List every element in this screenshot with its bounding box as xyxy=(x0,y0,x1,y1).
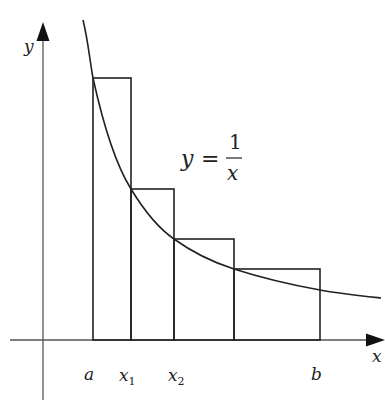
tick-label-x2: x2 xyxy=(168,365,185,388)
equation-label: y = 1 x xyxy=(180,130,242,185)
curve-one-over-x xyxy=(83,20,381,298)
equation-numerator: 1 xyxy=(229,130,242,154)
riemann-sum-diagram: y x y = 1 x a x1 x2 b xyxy=(0,0,385,404)
y-axis xyxy=(37,22,50,400)
x-axis-arrow-icon xyxy=(366,334,385,347)
tick-label-x1: x1 xyxy=(119,365,136,388)
x-axis-label: x xyxy=(372,346,382,366)
rectangle-3 xyxy=(174,239,234,340)
y-axis-label: y xyxy=(23,36,34,56)
rectangle-2 xyxy=(131,189,174,340)
y-axis-arrow-icon xyxy=(37,22,50,41)
equation-lhs: y xyxy=(180,146,194,171)
tick-label-b: b xyxy=(311,364,322,384)
equation-equals: = xyxy=(201,146,219,171)
rectangle-4 xyxy=(234,269,320,340)
tick-label-a: a xyxy=(84,364,94,384)
equation-denominator: x xyxy=(227,161,238,185)
rectangle-1 xyxy=(93,78,131,340)
rectangles xyxy=(93,78,320,340)
